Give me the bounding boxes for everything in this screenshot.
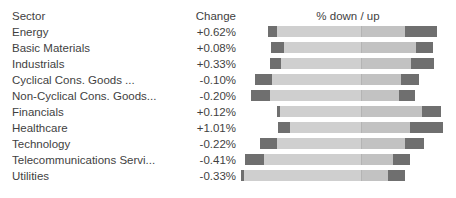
table-row[interactable]: Cyclical Cons. Goods ...-0.10% — [0, 72, 456, 88]
down-up-bar-cell — [240, 104, 456, 120]
table-row[interactable]: Financials+0.12% — [0, 104, 456, 120]
bar-segment-down — [278, 122, 290, 133]
change-value: +0.12% — [150, 104, 236, 120]
down-up-bar-cell — [240, 40, 456, 56]
bar-segment-down — [270, 58, 281, 69]
down-up-bar-cell — [240, 72, 456, 88]
change-value: -0.41% — [150, 152, 236, 168]
down-up-bar — [277, 106, 441, 117]
down-up-bar — [251, 90, 415, 101]
down-up-bar — [268, 26, 437, 37]
down-up-bar-cell — [240, 24, 456, 40]
down-up-bar-cell — [240, 152, 456, 168]
down-up-bar — [245, 154, 410, 165]
bar-segment-down — [268, 26, 277, 37]
down-up-bar-cell — [240, 120, 456, 136]
bar-midpoint-divider — [361, 154, 362, 165]
table-row[interactable]: Industrials+0.33% — [0, 56, 456, 72]
bar-segment-down — [277, 106, 280, 117]
change-value: +0.62% — [150, 24, 236, 40]
table-row[interactable]: Telecommunications Servi...-0.41% — [0, 152, 456, 168]
bar-segment-up — [399, 90, 415, 101]
table-row[interactable]: Utilities-0.33% — [0, 168, 456, 184]
table-row[interactable]: Energy+0.62% — [0, 24, 456, 40]
bar-segment-up — [416, 42, 433, 53]
down-up-bar — [255, 74, 419, 85]
change-value: -0.22% — [150, 136, 236, 152]
table-row[interactable]: Basic Materials+0.08% — [0, 40, 456, 56]
bar-segment-down — [245, 154, 264, 165]
down-up-bar — [260, 138, 424, 149]
table-header-row: Sector Change % down / up — [0, 8, 456, 24]
bar-segment-up — [405, 26, 437, 37]
bar-midpoint-divider — [361, 122, 362, 133]
change-value: +0.33% — [150, 56, 236, 72]
table-row[interactable]: Technology-0.22% — [0, 136, 456, 152]
down-up-bar — [270, 58, 434, 69]
bar-segment-up — [401, 74, 419, 85]
change-value: +0.08% — [150, 40, 236, 56]
bar-midpoint-divider — [361, 90, 362, 101]
bar-segment-up — [393, 154, 410, 165]
bar-segment-up — [422, 106, 441, 117]
sector-performance-table: Sector Change % down / up Energy+0.62%Ba… — [0, 0, 456, 198]
down-up-bar — [271, 42, 433, 53]
bar-segment-down — [271, 42, 284, 53]
bar-segment-up — [388, 170, 405, 181]
down-up-bar — [241, 170, 405, 181]
table-row[interactable]: Healthcare+1.01% — [0, 120, 456, 136]
column-header-change: Change — [150, 8, 236, 24]
column-header-bar-caption: % down / up — [240, 8, 456, 24]
bar-segment-down — [251, 90, 270, 101]
bar-segment-up — [405, 138, 424, 149]
bar-segment-down — [255, 74, 272, 85]
change-value: -0.20% — [150, 88, 236, 104]
bar-segment-down — [241, 170, 244, 181]
bar-midpoint-divider — [361, 138, 362, 149]
bar-midpoint-divider — [361, 74, 362, 85]
bar-midpoint-divider — [361, 42, 362, 53]
down-up-bar-cell — [240, 56, 456, 72]
down-up-bar-cell — [240, 88, 456, 104]
bar-midpoint-divider — [361, 26, 362, 37]
bar-segment-down — [260, 138, 277, 149]
change-value: +1.01% — [150, 120, 236, 136]
change-value: -0.10% — [150, 72, 236, 88]
down-up-bar-cell — [240, 168, 456, 184]
bar-midpoint-divider — [361, 58, 362, 69]
table-row[interactable]: Non-Cyclical Cons. Goods...-0.20% — [0, 88, 456, 104]
down-up-bar-cell — [240, 136, 456, 152]
bar-segment-up — [411, 58, 434, 69]
down-up-bar — [278, 122, 443, 133]
bar-midpoint-divider — [361, 106, 362, 117]
bar-midpoint-divider — [361, 170, 362, 181]
bar-segment-up — [410, 122, 443, 133]
change-value: -0.33% — [150, 168, 236, 184]
